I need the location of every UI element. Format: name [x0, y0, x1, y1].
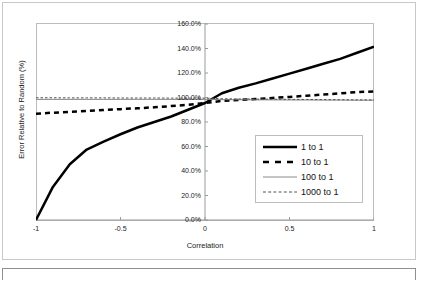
chart-screenshot: 0.0%20.0%40.0%60.0%80.0%100.0%120.0%140.…: [0, 0, 421, 281]
lower-empty-panel: [2, 268, 416, 280]
y-tick-label: 140.0%: [159, 45, 201, 53]
y-tick-label: 0.0%: [159, 216, 201, 224]
legend-swatch-thin-dotted-icon: [261, 186, 299, 198]
legend-item-1to1: 1 to 1: [256, 139, 362, 154]
y-tick-label: 100.0%: [159, 94, 201, 102]
legend-item-1000to1: 1000 to 1: [256, 184, 362, 199]
x-tick-label: 0: [185, 225, 225, 233]
legend-label-1to1: 1 to 1: [299, 142, 324, 152]
y-tick-label: 20.0%: [159, 192, 201, 200]
legend-swatch-thick-solid-icon: [261, 141, 299, 153]
legend-label-100to1: 100 to 1: [299, 172, 334, 182]
legend-swatch-thick-dashed-icon: [261, 156, 299, 168]
legend-label-1000to1: 1000 to 1: [299, 187, 339, 197]
chart-legend: 1 to 1 10 to 1 100 to 1: [255, 135, 363, 203]
legend-item-100to1: 100 to 1: [256, 169, 362, 184]
y-tick-label: 160.0%: [159, 20, 201, 28]
y-tick-label: 80.0%: [159, 118, 201, 126]
legend-swatch-thin-solid-icon: [261, 171, 299, 183]
x-tick-label: 0.5: [270, 225, 310, 233]
y-tick-label: 40.0%: [159, 167, 201, 175]
x-axis-title: Correlation: [36, 241, 374, 250]
x-tick-label: -0.5: [101, 225, 141, 233]
x-tick-label: -1: [16, 225, 56, 233]
x-tick-label: 1: [354, 225, 394, 233]
legend-item-10to1: 10 to 1: [256, 154, 362, 169]
y-axis-title: Error Relative to Random (%): [17, 30, 26, 190]
legend-label-10to1: 10 to 1: [299, 157, 329, 167]
y-tick-label: 120.0%: [159, 69, 201, 77]
y-tick-label: 60.0%: [159, 143, 201, 151]
chart-object-frame: 0.0%20.0%40.0%60.0%80.0%100.0%120.0%140.…: [2, 2, 416, 260]
